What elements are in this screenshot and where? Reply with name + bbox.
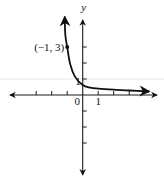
point-label: (−1, 3) xyxy=(34,41,64,54)
point-marker xyxy=(65,45,69,49)
x-tick-label-1: 1 xyxy=(95,95,101,107)
origin-label: 0 xyxy=(74,95,80,107)
y-tick-label-1: 1 xyxy=(75,75,81,87)
y-axis-label: y xyxy=(80,1,86,13)
graph: (−1, 3) y 0 1 1 xyxy=(0,0,164,176)
